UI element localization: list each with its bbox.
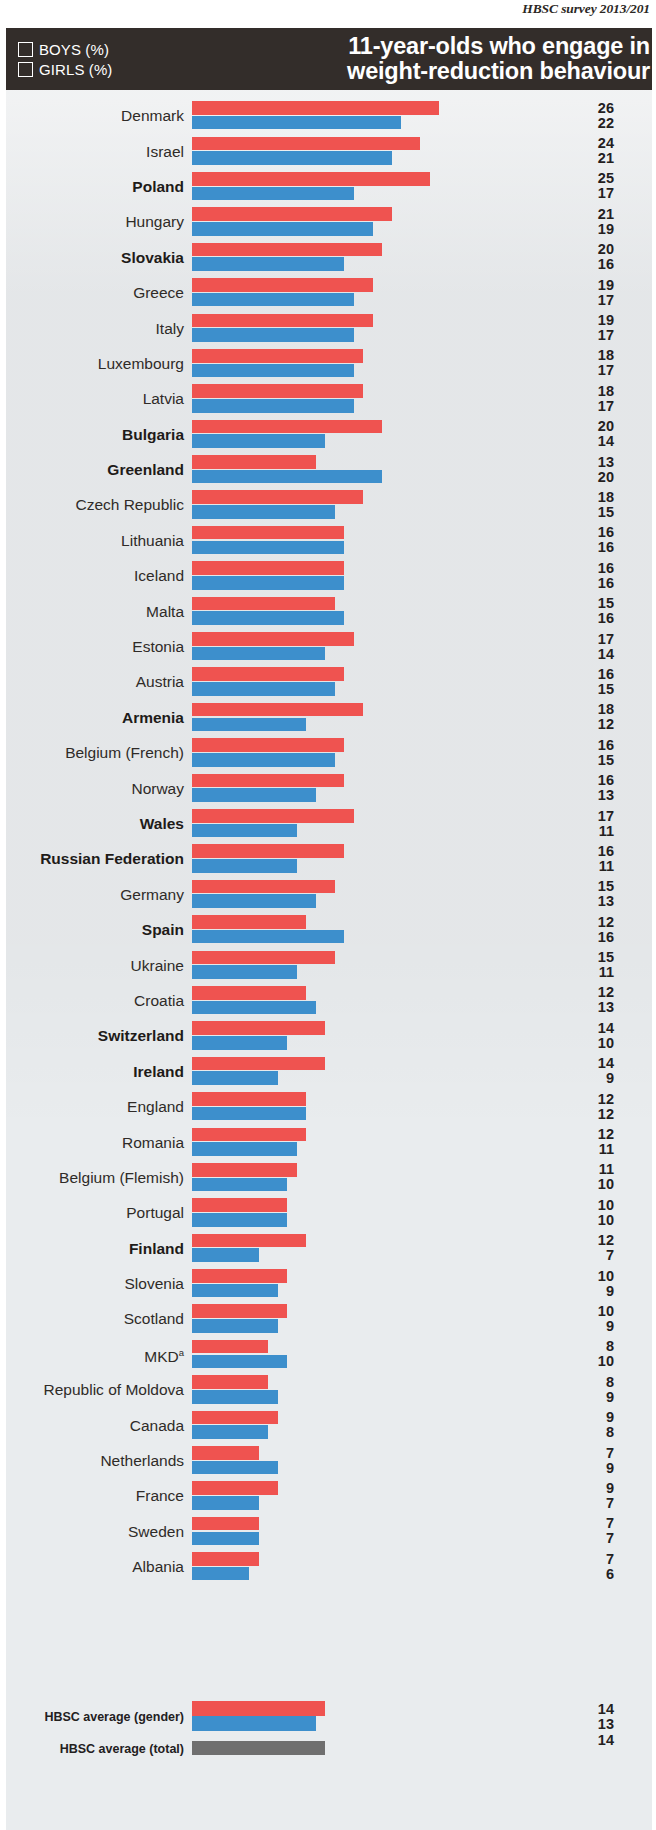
bar-boys [192,647,325,661]
value-pair: 1616 [464,524,652,556]
value-girls: 12 [584,1092,614,1107]
bar-pair [192,312,464,344]
bar-boys [192,965,297,979]
country-label: Italy [6,320,192,337]
bar-pair [192,1055,464,1087]
value-pair: 1616 [464,560,652,592]
value-pair: 97 [464,1480,652,1512]
chart-row: Belgium (Flemish)1110 [6,1160,652,1195]
country-label: Greenland [6,461,192,478]
value-pair: 1513 [464,878,652,910]
bar-pair [192,1091,464,1123]
country-label: Luxembourg [6,355,192,372]
value-boys: 19 [584,222,614,237]
bar-boys [192,1284,278,1298]
value-boys: 17 [584,293,614,308]
country-label: Portugal [6,1204,192,1221]
value-pair: 89 [464,1374,652,1406]
bar-boys [192,859,297,873]
value-girls: 17 [584,632,614,647]
legend-swatch-boys [18,42,33,57]
value-girls: 18 [584,348,614,363]
bar-pair [192,560,464,592]
value-girls: 14 [584,1056,614,1071]
value-pair: 1711 [464,808,652,840]
value-boys: 15 [584,505,614,520]
bar-pair [192,701,464,733]
bar-girls [192,1128,306,1142]
country-label: Ukraine [6,957,192,974]
bar-girls [192,1198,287,1212]
bar-girls [192,915,306,929]
bar-pair [192,914,464,946]
bar-pair [192,1232,464,1264]
bar-girls [192,561,344,575]
value-pair: 2421 [464,135,652,167]
bar-boys [192,328,354,342]
value-girls: 14 [584,1021,614,1036]
value-pair: 127 [464,1232,652,1264]
country-label: Slovenia [6,1275,192,1292]
chart-row: Slovakia2016 [6,240,652,275]
chart-plot-area: Denmark2622Israel2421Poland2517Hungary21… [6,90,652,1830]
bar-boys [192,470,382,484]
value-boys: 8 [584,1425,614,1440]
bar-girls [192,1340,268,1354]
value-girls: 9 [584,1481,614,1496]
bar-boys [192,505,335,519]
country-label: Switzerland [6,1027,192,1044]
bar-girls [192,1411,278,1425]
country-label: Scotland [6,1310,192,1327]
chart-row: England1212 [6,1089,652,1124]
bar-girls [192,597,335,611]
bar-girls [192,1057,325,1071]
bar-boys [192,257,344,271]
chart-row: Denmark2622 [6,98,652,133]
bar-girls [192,1021,325,1035]
average-values: 1413 [464,1701,652,1733]
bar-pair [192,843,464,875]
country-label: Republic of Moldova [6,1381,192,1398]
bar-pair [192,1197,464,1229]
value-girls: 16 [584,844,614,859]
bar-girls [192,1163,297,1177]
bar-girls [192,137,420,151]
bar-boys [192,1248,259,1262]
bar-boys [192,1071,278,1085]
country-label: England [6,1098,192,1115]
bar-boys [192,930,344,944]
chart-row: Croatia1213 [6,983,652,1018]
value-pair: 2622 [464,100,652,132]
average-label: HBSC average (gender) [6,1710,192,1724]
bar-girls [192,703,363,717]
value-girls: 16 [584,667,614,682]
bar-boys [192,222,373,236]
value-boys: 16 [584,611,614,626]
bar-boys [192,541,344,555]
running-head: HBSC survey 2013/201 [0,0,652,18]
bar-pair [192,666,464,698]
bar-girls [192,101,439,115]
bar-girls [192,738,344,752]
value-pair: 1511 [464,949,652,981]
bar-pair [192,808,464,840]
value-boys: 15 [584,682,614,697]
bar-pair [192,1515,464,1547]
value-boys: 9 [584,1071,614,1086]
bar-pair [192,100,464,132]
bar-girls [192,1517,259,1531]
bar-boys [192,1532,259,1546]
value-pair: 1917 [464,277,652,309]
value-boys: 14 [584,647,614,662]
bar-boys [192,788,316,802]
bar-boys [192,434,325,448]
country-label: Russian Federation [6,850,192,867]
average-bars [192,1700,464,1734]
value-pair: 1817 [464,383,652,415]
bar-pair [192,1020,464,1052]
bar-boys [192,1716,316,1731]
chart-row: Greenland1320 [6,452,652,487]
header-band: BOYS (%) GIRLS (%) 11-year-olds who enga… [6,28,652,90]
bar-pair [192,489,464,521]
chart-row: Albania76 [6,1549,652,1584]
